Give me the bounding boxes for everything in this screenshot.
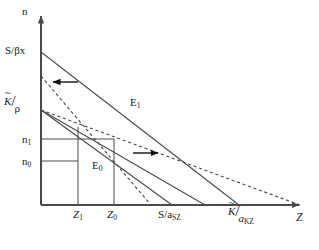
equilibrium-label-e0: E0 — [92, 160, 102, 173]
x-tick-z0-sub: 0 — [113, 213, 117, 222]
x-tick-z1: Z1 — [73, 209, 83, 222]
equilibrium-e0-base: E — [92, 159, 99, 171]
k-over-akz-fraction: ~K/aKZ — [228, 206, 255, 219]
x-tick-s-over-asz-base: S/a — [158, 208, 172, 220]
x-tick-z1-sub: 1 — [79, 213, 83, 222]
k-over-rho-denominator: ρ — [14, 103, 20, 114]
k-over-rho-fraction: ~K/ρ — [4, 96, 21, 107]
tilde-accent-icon-2: ~ — [229, 197, 235, 208]
direction-arrows-group — [53, 82, 158, 153]
k-over-akz-denominator: aKZ — [238, 213, 254, 226]
y-tick-s-over-beta-x-text: S/βx — [5, 44, 25, 56]
solid-K-line — [41, 110, 172, 205]
y-tick-n1-sub: 1 — [28, 138, 32, 147]
solid-curves-group — [41, 52, 239, 205]
solid-inner-line — [41, 110, 205, 205]
k-over-akz-numerator: ~K — [228, 206, 235, 217]
x-tick-s-over-asz: S/aSZ — [158, 209, 181, 222]
tilde-accent-icon: ~ — [5, 87, 11, 98]
k-over-rho-numerator: ~K — [4, 96, 11, 107]
equilibrium-e1-base: E — [130, 96, 137, 108]
x-tick-z0: Z0 — [107, 209, 117, 222]
y-tick-n0: n0 — [22, 156, 31, 169]
phase-diagram-figure: n Z S/βx ~K/ρ n1 n0 Z1 Z0 S/aSZ ~K/aKZ E… — [0, 0, 319, 250]
y-axis-label: n — [22, 6, 28, 17]
y-tick-n0-sub: 0 — [28, 160, 32, 169]
equilibrium-e0-sub: 0 — [99, 164, 103, 173]
guide-lines-group — [41, 127, 114, 205]
x-axis-label: Z — [296, 211, 303, 223]
y-tick-s-over-beta-x: S/βx — [5, 45, 25, 56]
dashed-K-line-shifted — [41, 110, 300, 205]
y-tick-n1: n1 — [22, 134, 31, 147]
equilibrium-label-e1: E1 — [130, 97, 140, 110]
equilibrium-e1-sub: 1 — [137, 101, 141, 110]
x-tick-s-over-asz-sub: SZ — [172, 213, 181, 222]
axes-group — [41, 16, 299, 205]
y-tick-k-over-rho: ~K/ρ — [4, 96, 21, 107]
x-tick-k-over-akz: ~K/aKZ — [228, 206, 255, 219]
